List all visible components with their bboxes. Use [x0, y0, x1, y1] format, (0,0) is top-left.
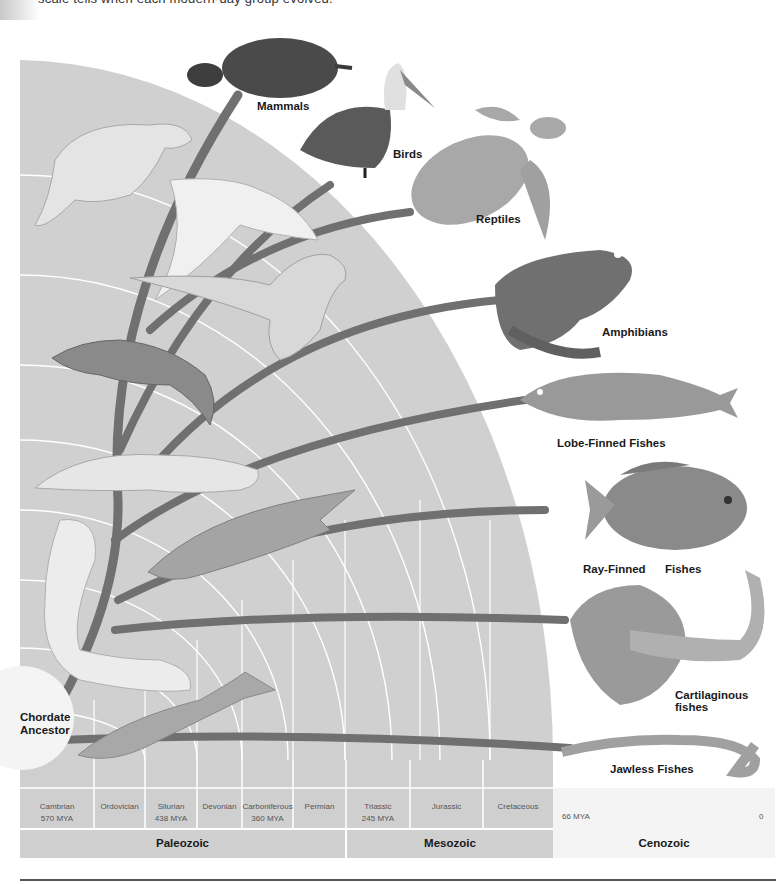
label-amphibians: Amphibians	[602, 326, 668, 338]
ray-finned-fish-icon	[585, 462, 747, 550]
bottom-rule	[20, 879, 776, 881]
label-ray-finned: Ray-Finned	[583, 563, 646, 575]
label-birds: Birds	[393, 148, 422, 160]
period-permian: Permian	[293, 801, 346, 813]
lobe-finned-fish-icon	[520, 373, 738, 421]
period-cretaceous: Cretaceous	[483, 801, 553, 813]
period-carboniferous: Carboniferous360 MYA	[242, 801, 293, 825]
period-silurian: Silurian438 MYA	[145, 801, 197, 825]
era-cenozoic: Cenozoic	[553, 837, 775, 849]
label-ray-finned-fishes: Fishes	[665, 563, 701, 575]
label-lobe-finned-fishes: Lobe-Finned Fishes	[557, 437, 666, 449]
label-cartilaginous: Cartilaginous	[675, 689, 748, 701]
amphibian-frog-icon	[495, 250, 632, 354]
mammal-mole-icon	[187, 38, 352, 98]
period-jurassic: Jurassic	[410, 801, 483, 813]
ancestor-line2: Ancestor	[20, 724, 70, 737]
era-paleozoic: Paleozoic	[20, 837, 345, 849]
period-ordovician: Ordovician	[94, 801, 145, 813]
period-triassic: Triassic245 MYA	[346, 801, 410, 825]
label-cartilaginous-fishes: fishes	[675, 701, 708, 713]
label-reptiles: Reptiles	[476, 213, 521, 225]
label-jawless-fishes: Jawless Fishes	[610, 763, 694, 775]
chordate-ancestor-label: Chordate Ancestor	[20, 711, 70, 737]
cenozoic-start-mya: 66 MYA	[562, 812, 590, 821]
present-mya: 0	[759, 812, 763, 821]
period-devonian: Devonian	[197, 801, 242, 813]
label-mammals: Mammals	[257, 100, 309, 112]
cartilaginous-fish-ray-icon	[570, 570, 765, 705]
period-cambrian: Cambrian570 MYA	[20, 801, 94, 825]
era-mesozoic: Mesozoic	[347, 837, 553, 849]
ancestor-line1: Chordate	[20, 711, 70, 724]
